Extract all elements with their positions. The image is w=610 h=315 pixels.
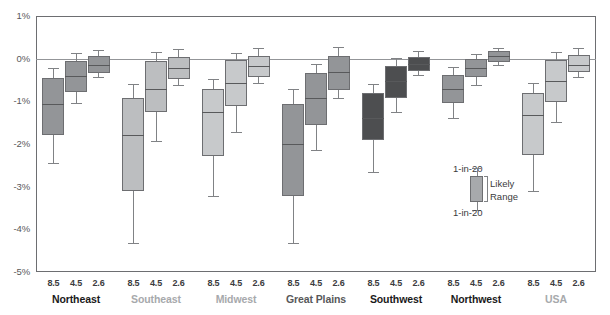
box-rect	[42, 78, 64, 134]
lower-cap	[253, 83, 264, 84]
upper-cap	[391, 58, 402, 59]
legend-likely-range-label-line1: Likely	[490, 178, 514, 189]
lower-cap	[551, 122, 562, 123]
upper-whisker	[236, 53, 237, 60]
box-plot	[282, 0, 304, 272]
upper-cap	[493, 48, 504, 49]
lower-cap	[448, 118, 459, 119]
lower-cap	[288, 243, 299, 244]
median-line	[168, 68, 190, 69]
upper-cap	[333, 47, 344, 48]
upper-cap	[528, 83, 539, 84]
lower-cap	[333, 98, 344, 99]
y-axis-tick-label: 0%	[0, 53, 30, 64]
box-plot	[545, 0, 567, 272]
legend-upper-cap	[472, 168, 481, 169]
upper-cap	[253, 48, 264, 49]
legend-brace	[484, 176, 488, 202]
box-plot	[145, 0, 167, 272]
box-rect	[282, 104, 304, 196]
upper-cap	[471, 54, 482, 55]
median-line	[225, 83, 247, 84]
legend-box-swatch	[470, 176, 483, 202]
x-axis-scenario-label: 2.6	[85, 278, 113, 288]
lower-whisker	[213, 156, 214, 196]
y-axis-tick-label: -3%	[0, 181, 30, 192]
lower-cap	[93, 77, 104, 78]
median-line	[465, 68, 487, 69]
lower-whisker	[133, 191, 134, 243]
upper-cap	[288, 89, 299, 90]
lower-cap	[413, 75, 424, 76]
median-line	[545, 81, 567, 82]
upper-cap	[208, 79, 219, 80]
box-rect	[122, 98, 144, 191]
median-line	[522, 115, 544, 116]
lower-whisker	[293, 196, 294, 243]
y-axis-tick-label: -1%	[0, 95, 30, 106]
lower-whisker	[156, 112, 157, 141]
y-axis-tick-label: -4%	[0, 223, 30, 234]
lower-whisker	[76, 92, 77, 104]
box-rect	[385, 66, 407, 98]
lower-cap	[391, 112, 402, 113]
upper-cap	[448, 67, 459, 68]
median-line	[248, 66, 270, 67]
box-plot-chart: 1%0%-1%-2%-3%-4%-5% 8.54.52.6Northeast8.…	[0, 0, 610, 315]
lower-whisker	[338, 90, 339, 98]
upper-cap	[48, 68, 59, 69]
upper-cap	[93, 50, 104, 51]
box-rect	[202, 89, 224, 156]
upper-whisker	[53, 68, 54, 78]
lower-cap	[48, 163, 59, 164]
upper-whisker	[338, 47, 339, 56]
lower-whisker	[236, 106, 237, 132]
median-line	[122, 135, 144, 136]
upper-whisker	[453, 67, 454, 75]
median-line	[442, 89, 464, 90]
x-axis-scenario-label: 2.6	[565, 278, 593, 288]
box-plot	[385, 0, 407, 272]
upper-cap	[573, 48, 584, 49]
box-plot	[362, 0, 384, 272]
upper-whisker	[76, 53, 77, 61]
box-plot	[568, 0, 590, 272]
median-line	[305, 98, 327, 99]
box-plot	[42, 0, 64, 272]
x-axis-scenario-label: 2.6	[485, 278, 513, 288]
legend-likely-range-label-line2: Range	[490, 191, 518, 202]
box-plot	[442, 0, 464, 272]
upper-cap	[173, 49, 184, 50]
median-line	[65, 76, 87, 77]
box-plot	[88, 0, 110, 272]
lower-cap	[151, 141, 162, 142]
median-line	[145, 89, 167, 90]
x-axis-scenario-label: 2.6	[165, 278, 193, 288]
box-plot	[122, 0, 144, 272]
lower-whisker	[316, 125, 317, 151]
box-plot	[522, 0, 544, 272]
median-line	[362, 118, 384, 119]
upper-cap	[231, 53, 242, 54]
lower-whisker	[533, 155, 534, 191]
upper-whisker	[578, 48, 579, 56]
lower-cap	[528, 191, 539, 192]
upper-cap	[71, 53, 82, 54]
lower-whisker	[476, 77, 477, 85]
upper-whisker	[258, 48, 259, 55]
median-line	[42, 104, 64, 105]
legend-lower-1in20-label: 1-in-20	[453, 207, 483, 218]
lower-cap	[173, 85, 184, 86]
box-plot	[248, 0, 270, 272]
upper-whisker	[156, 52, 157, 61]
box-rect	[88, 56, 110, 73]
box-plot	[465, 0, 487, 272]
median-line	[328, 72, 350, 73]
lower-cap	[128, 243, 139, 244]
box-plot	[168, 0, 190, 272]
box-rect	[522, 93, 544, 155]
x-axis-group-label: USA	[501, 293, 610, 305]
upper-cap	[551, 52, 562, 53]
legend-upper-whisker	[477, 168, 478, 176]
lower-cap	[368, 172, 379, 173]
